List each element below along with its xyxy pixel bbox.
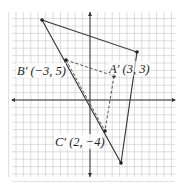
label-b-prime: B′ (−3, 5) xyxy=(17,64,66,78)
x-axis-arrow-right xyxy=(172,98,176,102)
y-axis-arrow-down xyxy=(88,173,92,177)
axes xyxy=(11,12,176,177)
x-axis-arrow-left xyxy=(11,98,15,102)
label-c-prime: C′ (2, −4) xyxy=(55,135,105,149)
point-c-prime xyxy=(103,129,107,133)
grid-lines xyxy=(9,12,175,181)
vertex-bottom xyxy=(119,161,123,165)
coordinate-plane: B′ (−3, 5) A′ (3, 3) C′ (2, −4) xyxy=(0,0,187,187)
vertex-top-left xyxy=(40,18,44,22)
label-a-prime: A′ (3, 3) xyxy=(108,62,150,76)
point-b-prime xyxy=(64,58,68,62)
vertex-right xyxy=(135,50,139,54)
y-axis-arrow-up xyxy=(88,12,92,16)
